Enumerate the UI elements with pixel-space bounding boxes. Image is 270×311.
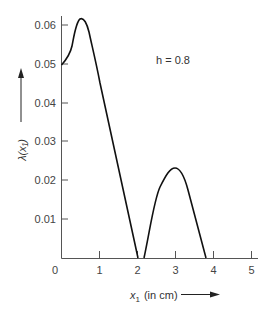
y-tick-labels: 0.06 0.05 0.04 0.03 0.02 0.01 [35,19,56,225]
chart: 0.06 0.05 0.04 0.03 0.02 0.01 0 1 2 3 4 … [0,0,270,311]
y-tick-label: 0.02 [35,174,56,186]
x-axis-label: x1(in cm) [129,289,178,304]
origin-label: 0 [52,264,58,276]
x-tick-label: 2 [134,264,140,276]
x-axis-arrow-icon [181,292,220,298]
x-tick-label: 4 [210,264,216,276]
x-tick-label: 5 [248,264,254,276]
y-tick-label: 0.06 [35,19,56,31]
x-tick-label: 3 [172,264,178,276]
y-axis-label-text: λ(x₁) [16,139,28,162]
x-ticks [100,251,252,259]
h-annotation: h = 0.8 [156,54,190,66]
y-tick-label: 0.01 [35,213,56,225]
y-axis-arrow-icon [18,68,24,122]
x-tick-label: 1 [96,264,102,276]
x-axis-label-unit: (in cm) [144,289,178,301]
y-tick-label: 0.05 [35,58,56,70]
y-tick-label: 0.04 [35,97,56,109]
y-tick-label: 0.03 [35,135,56,147]
y-axis-label: λ(x₁) [16,139,28,162]
y-ticks [62,25,69,219]
x-tick-labels: 0 1 2 3 4 5 [52,264,255,276]
x-axis-label-sub: 1 [136,295,141,304]
